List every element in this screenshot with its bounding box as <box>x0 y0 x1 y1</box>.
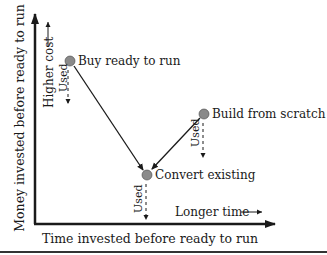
longer-time-label: Longer time <box>175 205 249 219</box>
node-convert-used-label: Used <box>132 185 145 213</box>
edge-buy-to-convert <box>74 66 143 170</box>
y-axis-label: Money invested before ready to run <box>12 4 27 231</box>
diagram-svg: Money invested before ready to run Time … <box>0 0 327 255</box>
node-convert-label: Convert existing <box>155 168 256 182</box>
node-build: Build from scratch Used <box>189 107 326 158</box>
node-build-used-label: Used <box>189 119 202 147</box>
node-convert-dot <box>142 170 152 180</box>
node-buy: Buy ready to run Used <box>57 54 181 104</box>
node-buy-label: Buy ready to run <box>78 54 181 68</box>
node-build-dot <box>199 109 209 119</box>
diagram-canvas: Money invested before ready to run Time … <box>0 0 327 255</box>
higher-cost-label: Higher cost <box>42 37 56 108</box>
node-build-label: Build from scratch <box>212 107 326 121</box>
x-axis-label: Time invested before ready to run <box>42 231 258 246</box>
